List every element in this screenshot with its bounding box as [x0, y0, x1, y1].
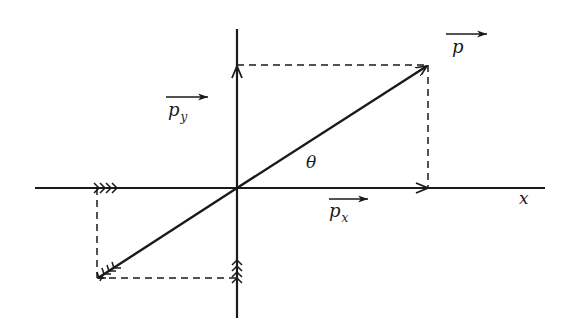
label-theta: θ — [306, 154, 316, 171]
label-py-text: p — [168, 99, 180, 120]
label-px-subscript: x — [342, 211, 349, 225]
vector-diagram: p py px θ x — [0, 0, 572, 332]
label-x-axis-text: x — [519, 188, 529, 208]
label-py: py — [168, 101, 187, 119]
label-theta-text: θ — [306, 152, 316, 172]
label-p: p — [452, 38, 464, 56]
label-px-text: p — [329, 200, 341, 221]
label-p-text: p — [452, 36, 464, 57]
label-px: px — [329, 202, 348, 220]
label-x-axis: x — [519, 190, 529, 207]
diagram-svg — [0, 0, 572, 332]
vector-neg-p — [98, 188, 237, 278]
vector-p — [237, 66, 427, 188]
label-py-subscript: y — [181, 110, 188, 124]
